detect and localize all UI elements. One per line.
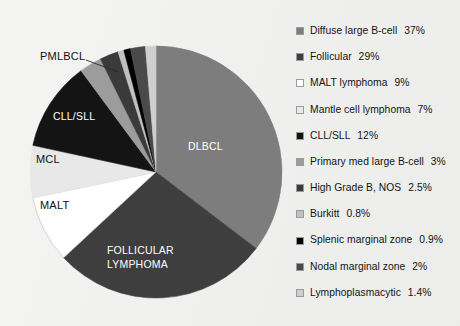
legend-item-label: Burkitt 0.8% [310,209,370,219]
legend-item[interactable]: Follicular 29% [296,44,460,70]
legend-item-percent: 7% [415,104,433,115]
legend-item-percent: 0.8% [344,208,371,219]
legend-item[interactable]: Diffuse large B-cell 37% [296,18,460,44]
legend-item[interactable]: Splenic marginal zone 0.9% [296,228,460,254]
legend-swatch-icon [296,289,304,297]
pie-label-mcl: MCL [36,153,60,165]
pie-label-follicular-line1: FOLLICULAR [107,244,174,256]
legend-item-percent: 29% [356,51,380,62]
pie-label-cll-sll: CLL/SLL [53,110,95,122]
legend-item-percent: 12% [354,130,378,141]
legend-item-percent: 1.4% [405,287,432,298]
legend-swatch-icon [296,210,304,218]
legend-item[interactable]: Nodal marginal zone 2% [296,254,460,280]
legend-item[interactable]: CLL/SLL 12% [296,123,460,149]
legend-swatch-icon [296,263,304,271]
legend-swatch-icon [296,79,304,87]
legend-item[interactable]: Burkitt 0.8% [296,201,460,227]
pie-chart-area: PMLBCL MCL MALT DLBCL FOLLICULAR LYMPHOM… [0,0,290,326]
legend-item[interactable]: High Grade B, NOS 2.5% [296,175,460,201]
pie-label-pmlbcl: PMLBCL [40,50,85,62]
legend-item-label: MALT lymphoma 9% [310,78,409,88]
legend-swatch-icon [296,53,304,61]
legend-item[interactable]: Primary med large B-cell 3% [296,149,460,175]
legend-swatch-icon [296,237,304,245]
legend-swatch-icon [296,132,304,140]
legend-swatch-icon [296,158,304,166]
legend-item-label: Diffuse large B-cell 37% [310,26,425,36]
chart-legend: Diffuse large B-cell 37%Follicular 29%MA… [296,18,460,306]
pie-label-follicular-line2: LYMPHOMA [107,258,168,270]
pie-label-dlbcl: DLBCL [188,140,223,152]
legend-item-label: Primary med large B-cell 3% [310,157,446,167]
legend-item-label: Splenic marginal zone 0.9% [310,235,443,245]
legend-item[interactable]: MALT lymphoma 9% [296,70,460,96]
legend-item[interactable]: Lymphoplasmacytic 1.4% [296,280,460,306]
chart-figure: PMLBCL MCL MALT DLBCL FOLLICULAR LYMPHOM… [0,0,460,326]
legend-swatch-icon [296,106,304,114]
legend-item-label: CLL/SLL 12% [310,131,378,141]
legend-item-label: Nodal marginal zone 2% [310,262,427,272]
legend-swatch-icon [296,184,304,192]
legend-item-percent: 0.9% [416,234,443,245]
legend-item-percent: 2% [409,261,427,272]
legend-item-label: High Grade B, NOS 2.5% [310,183,432,193]
legend-item-label: Follicular 29% [310,52,379,62]
legend-item-percent: 9% [392,77,410,88]
legend-item-percent: 37% [401,25,425,36]
legend-swatch-icon [296,27,304,35]
legend-item-percent: 3% [428,156,446,167]
legend-item[interactable]: Mantle cell lymphoma 7% [296,97,460,123]
pie-chart-svg: PMLBCL MCL MALT DLBCL FOLLICULAR LYMPHOM… [0,0,290,326]
pie-label-malt: MALT [40,199,69,211]
legend-item-label: Mantle cell lymphoma 7% [310,105,432,115]
legend-item-label: Lymphoplasmacytic 1.4% [310,288,431,298]
legend-item-percent: 2.5% [405,182,432,193]
